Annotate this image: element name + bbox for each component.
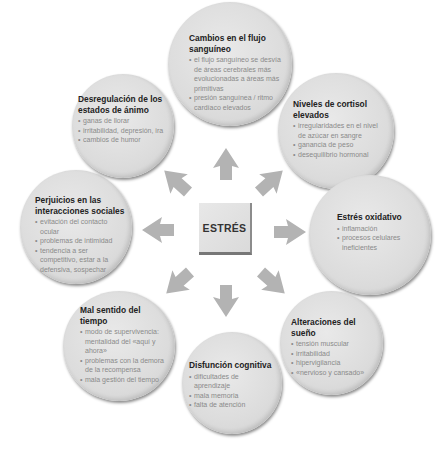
- center-stress-box: ESTRÉS: [199, 203, 252, 255]
- center-label: ESTRÉS: [203, 222, 247, 234]
- bullet-item: ganancia de peso: [293, 140, 385, 150]
- bubble-title: Cambios en el flujo sanguíneo: [189, 33, 281, 54]
- bullet-item: evitación del contacto ocular: [35, 217, 127, 236]
- bubble-sleep-content: Alteraciones del sueño tensión muscular …: [291, 317, 381, 377]
- bubble-oxidative-content: Estrés oxidativo inflamación procesos ce…: [337, 212, 413, 252]
- bullet-item: desequilibrio hormonal: [293, 150, 385, 160]
- bullet-item: irregularidades en el nivel de azúcar en…: [293, 121, 385, 140]
- arrow-down-icon: [213, 285, 239, 317]
- bullet-item: tendencia a ser competitivo, estar a la …: [35, 246, 127, 275]
- arrow-left-icon: [142, 217, 174, 243]
- bullet-item: irritabilidad: [291, 349, 381, 359]
- bullet-item: irritabilidad, depresión, ira: [78, 126, 170, 136]
- bullet-item: «nervioso y cansado»: [291, 368, 381, 378]
- arrow-up-right-icon: [250, 161, 291, 202]
- bullet-item: tensión muscular: [291, 339, 381, 349]
- arrow-right-icon: [274, 219, 306, 245]
- bullet-item: dificultades de aprendizaje: [189, 372, 247, 391]
- bubble-time-content: Mal sentido del tiempo modo de supervive…: [80, 305, 170, 385]
- bullet-item: cambios de humor: [78, 135, 170, 145]
- bullet-item: mala gestión del tiempo: [80, 375, 170, 385]
- arrow-down-right-icon: [252, 262, 293, 303]
- bubble-title: Alteraciones del sueño: [291, 317, 381, 338]
- bubble-title: Perjuicios en las interacciones sociales: [35, 195, 127, 216]
- stress-effects-diagram: ESTRÉS Cambios en el flujo sanguíneo el …: [0, 0, 439, 455]
- bubble-social-content: Perjuicios en las interacciones sociales…: [35, 195, 127, 275]
- bubble-cortisol-content: Niveles de cortisol elevados irregularid…: [293, 99, 385, 159]
- bullet-item: falta de atención: [189, 400, 247, 410]
- bullet-item: problemas con la demora de la recompensa: [80, 356, 170, 375]
- bullet-item: mala memoria: [189, 391, 247, 401]
- bullet-item: procesos celulares ineficientes: [337, 233, 413, 252]
- bubble-title: Niveles de cortisol elevados: [293, 99, 385, 120]
- bullet-item: modo de supervivencia: mentalidad del «a…: [80, 327, 170, 356]
- bubble-title: Desregulación de los estados de ánimo: [78, 94, 170, 115]
- bubble-cognitive-content: Disfunción cognitiva dificultades de apr…: [189, 360, 279, 410]
- bubble-title: Disfunción cognitiva: [189, 360, 279, 371]
- bullet-item: ganas de llorar: [78, 116, 170, 126]
- bullet-item: presión sanguínea / ritmo cardíaco eleva…: [189, 93, 281, 112]
- bubble-title: Estrés oxidativo: [337, 212, 413, 223]
- arrow-up-left-icon: [156, 161, 197, 202]
- bullet-item: el flujo sanguíneo se desvía de áreas ce…: [189, 55, 281, 93]
- bullet-item: inflamación: [337, 224, 413, 234]
- arrow-up-icon: [213, 148, 239, 180]
- bubble-mood-content: Desregulación de los estados de ánimo ga…: [78, 94, 170, 145]
- bubble-blood-flow-content: Cambios en el flujo sanguíneo el flujo s…: [189, 33, 281, 113]
- bullet-item: problemas de intimidad: [35, 236, 127, 246]
- bullet-item: hipervigilancia: [291, 358, 381, 368]
- arrow-down-left-icon: [158, 262, 199, 303]
- bubble-title: Mal sentido del tiempo: [80, 305, 170, 326]
